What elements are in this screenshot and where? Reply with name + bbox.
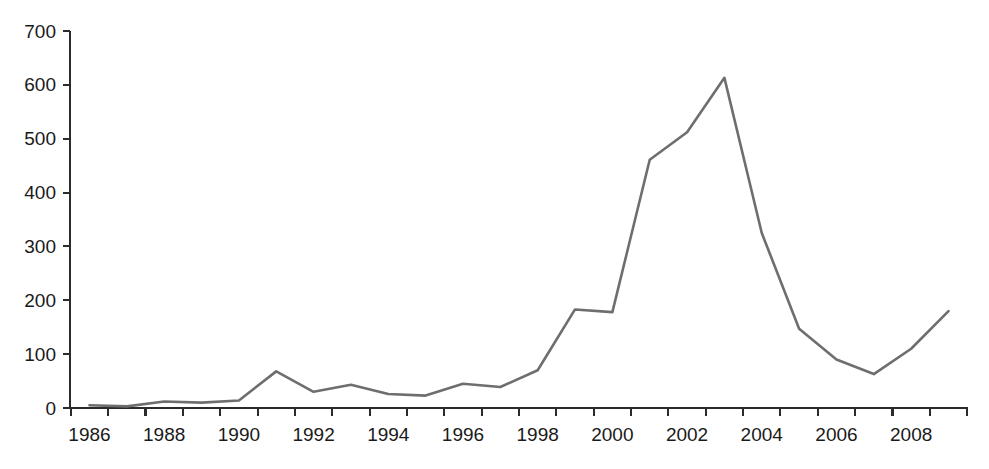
x-tick-label: 1994 [367,424,410,445]
x-axis: 1986198819901992199419961998200020022004… [68,408,968,445]
y-tick-label: 200 [24,290,56,311]
x-tick-label: 1986 [68,424,110,445]
data-series [90,78,949,407]
x-tick-label: 1990 [218,424,260,445]
x-tick-label: 1988 [143,424,185,445]
y-tick-label: 0 [45,398,56,419]
y-tick-label: 600 [24,74,56,95]
x-tick-label: 1992 [292,424,334,445]
y-tick-label: 300 [24,236,56,257]
x-tick-label: 2008 [890,424,932,445]
x-tick-label: 2000 [591,424,633,445]
x-tick-label: 1996 [442,424,484,445]
x-tick-label: 2002 [666,424,708,445]
y-tick-label: 100 [24,344,56,365]
y-tick-label: 400 [24,182,56,203]
y-axis: 0100200300400500600700 [24,21,70,419]
y-tick-label: 700 [24,21,56,42]
series-line-1 [90,78,949,407]
line-chart: 0100200300400500600700 19861988199019921… [0,0,989,469]
y-tick-label: 500 [24,128,56,149]
x-tick-label: 1998 [517,424,559,445]
chart-canvas: 0100200300400500600700 19861988199019921… [0,0,989,469]
x-tick-label: 2004 [741,424,784,445]
x-tick-label: 2006 [815,424,857,445]
